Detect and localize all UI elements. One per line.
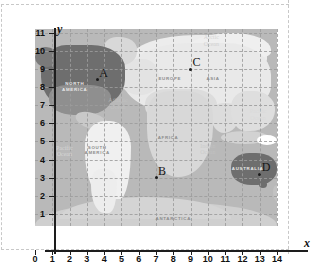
data-point-label-c: C <box>193 55 201 70</box>
world-map <box>35 29 277 226</box>
map-label-asia: ASIA <box>193 76 233 82</box>
map-label-pacific-ocean: Pacific Ocean <box>238 108 278 121</box>
x-axis-tick-label: 11 <box>217 254 233 264</box>
map-label-north-america: NORTH AMERICA <box>55 81 95 92</box>
y-axis-tick-label: 6 <box>29 118 45 128</box>
y-axis-tick <box>49 141 55 142</box>
y-axis-tick <box>49 51 55 52</box>
y-axis-tick-label: 1 <box>29 209 45 219</box>
y-axis-label: y <box>57 22 62 37</box>
y-axis-tick-label: 8 <box>29 82 45 92</box>
y-axis-tick <box>49 160 55 161</box>
map-label-europe: EUROPE <box>150 76 190 82</box>
y-axis-tick <box>49 33 55 34</box>
landmass-new-zealand <box>273 185 277 201</box>
y-axis-tick-label: 9 <box>29 64 45 74</box>
y-axis-tick-label: 3 <box>29 173 45 183</box>
y-axis-tick-label: 7 <box>29 100 45 110</box>
map-label-antarctica: ANTARCTICA <box>153 216 193 222</box>
y-axis-tick <box>49 214 55 215</box>
map-label-arctic-ocean: Arctic Ocean <box>191 34 231 47</box>
gridline-vertical <box>277 29 278 226</box>
x-axis-tick-label: 5 <box>113 254 129 264</box>
y-axis-tick <box>49 196 55 197</box>
x-axis-tick-label: 8 <box>165 254 181 264</box>
data-point-label-b: B <box>158 164 166 179</box>
y-axis-tick-label: 10 <box>29 46 45 56</box>
x-axis-line <box>45 250 308 252</box>
landmass-antarctica-inner <box>59 197 231 219</box>
y-axis-tick-label: 4 <box>29 155 45 165</box>
x-axis-tick-label: 6 <box>131 254 147 264</box>
data-point-label-d: D <box>262 160 271 175</box>
figure-frame-right <box>288 0 289 254</box>
x-axis-tick-label: 13 <box>252 254 268 264</box>
x-axis-tick-label: 9 <box>183 254 199 264</box>
x-axis-tick-label: 2 <box>62 254 78 264</box>
landmass-new-guinea <box>257 135 277 145</box>
y-axis-tick <box>49 87 55 88</box>
y-axis-tick-label: 5 <box>29 136 45 146</box>
landmass-africa <box>147 91 213 177</box>
x-axis-tick-label: 12 <box>234 254 250 264</box>
figure-frame-top <box>1 4 289 5</box>
landmass-tasmania <box>259 181 267 188</box>
x-axis-tick-label: 0 <box>27 254 43 264</box>
x-axis-tick-label: 7 <box>148 254 164 264</box>
x-axis-tick-label: 10 <box>200 254 216 264</box>
map-label-africa: AFRICA <box>148 135 188 141</box>
data-point-label-a: A <box>99 66 108 81</box>
x-axis-tick-label: 3 <box>79 254 95 264</box>
y-axis-tick-label: 11 <box>29 28 45 38</box>
y-axis-tick <box>49 123 55 124</box>
y-axis-tick <box>49 105 55 106</box>
y-axis-tick-label: 2 <box>29 191 45 201</box>
figure-frame-left <box>1 4 2 250</box>
x-axis-tick-label: 4 <box>96 254 112 264</box>
y-axis-tick <box>49 178 55 179</box>
plot-area: NORTH AMERICASOUTH AMERICAEUROPEASIAAFRI… <box>27 18 277 232</box>
map-label-atlantic-ocean: Atlantic Ocean <box>98 97 138 110</box>
x-axis-tick-label: 14 <box>269 254 285 264</box>
y-axis-tick <box>49 69 55 70</box>
x-axis-label: x <box>304 236 310 251</box>
map-label-pacific-ocean: Pacific Ocean <box>44 145 84 158</box>
map-label-indian-ocean: Indian Ocean <box>188 143 228 156</box>
landmass-south-america-south <box>91 169 117 213</box>
x-axis-tick-label: 1 <box>44 254 60 264</box>
